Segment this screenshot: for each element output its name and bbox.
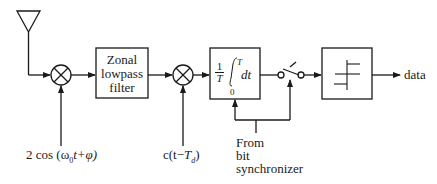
receiver-block-diagram: Zonal lowpass filter 1 T T 0 dt 2 cos (ω… bbox=[0, 0, 437, 184]
integral-lower-limit: 0 bbox=[230, 85, 235, 99]
lpf-line-2: lowpass bbox=[96, 67, 148, 81]
carrier-tail: t+φ) bbox=[73, 147, 97, 162]
integrator-fraction: 1 T bbox=[215, 61, 224, 84]
sync-line-3: synchronizer bbox=[236, 162, 303, 175]
multiplier-icon-1 bbox=[51, 65, 71, 85]
lpf-label: Zonal lowpass filter bbox=[96, 53, 148, 95]
carrier-text: 2 cos (ω bbox=[26, 147, 69, 162]
lpf-line-3: filter bbox=[96, 81, 148, 95]
output-data-label: data bbox=[404, 68, 426, 82]
frac-den: T bbox=[215, 72, 224, 84]
code-pre: c(t− bbox=[163, 147, 184, 162]
code-input-label: c(t−Td) bbox=[163, 148, 200, 168]
threshold-icon bbox=[334, 60, 360, 90]
frac-num: 1 bbox=[215, 61, 224, 72]
code-tail: ) bbox=[195, 147, 199, 162]
sampler-switch-icon bbox=[278, 62, 304, 78]
lpf-line-1: Zonal bbox=[96, 53, 148, 67]
bit-synchronizer-label: From bit synchronizer bbox=[236, 136, 303, 175]
integral-dt: dt bbox=[241, 68, 251, 82]
carrier-input-label: 2 cos (ω0t+φ) bbox=[26, 148, 97, 168]
antenna-icon bbox=[17, 11, 40, 75]
multiplier-icon-2 bbox=[173, 65, 193, 85]
